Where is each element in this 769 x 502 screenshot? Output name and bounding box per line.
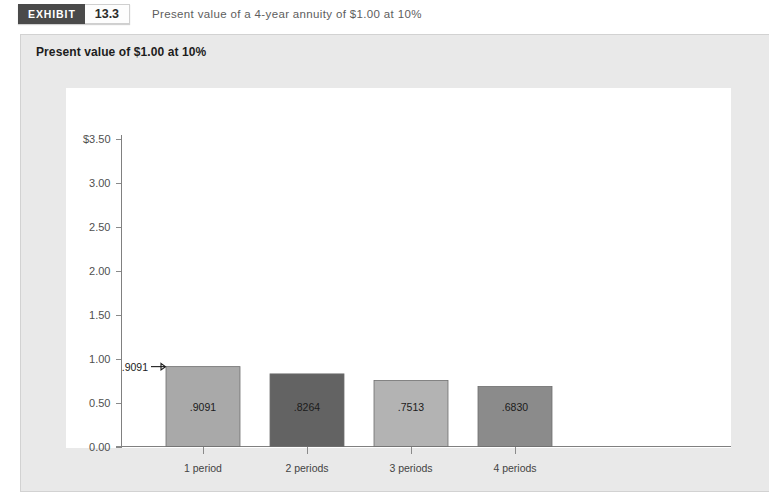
exhibit-badge-label: EXHIBIT bbox=[18, 4, 85, 24]
y-axis-tick-marks bbox=[116, 140, 122, 448]
chart-panel: Present value of $1.00 at 10% 0.000.501.… bbox=[20, 34, 769, 492]
y-axis-tick-label: 3.00 bbox=[89, 177, 110, 189]
x-axis-tick-marks bbox=[204, 447, 516, 454]
bar bbox=[478, 386, 552, 446]
y-axis-tick-labels: 0.000.501.001.502.002.503.00$3.50 bbox=[83, 133, 111, 453]
bar-value-label: .9091 bbox=[190, 401, 216, 413]
y-axis-tick-label: 2.50 bbox=[89, 221, 110, 233]
x-axis-tick-label: 2 periods bbox=[285, 462, 328, 474]
bars-group: .9091.8264.7513.6830 bbox=[166, 367, 552, 447]
y-axis-tick-label: 0.50 bbox=[89, 397, 110, 409]
bar-value-label: .8264 bbox=[294, 401, 320, 413]
y-axis-tick-label: 1.00 bbox=[89, 353, 110, 365]
bar bbox=[374, 380, 448, 446]
y-axis-tick-label: 0.00 bbox=[89, 441, 110, 453]
exhibit-header: EXHIBIT 13.3 Present value of a 4-year a… bbox=[0, 0, 769, 28]
y-axis-tick-label: 2.00 bbox=[89, 265, 110, 277]
y-axis-tick-label: $3.50 bbox=[83, 133, 111, 145]
exhibit-badge-number: 13.3 bbox=[85, 4, 130, 24]
x-axis-tick-label: 3 periods bbox=[389, 462, 432, 474]
exhibit-badge: EXHIBIT 13.3 bbox=[18, 4, 130, 24]
chart-annotations: .9091 bbox=[122, 361, 166, 373]
x-axis-tick-labels: 1 period2 periods3 periods4 periods bbox=[184, 462, 537, 474]
y-axis-tick-label: 1.50 bbox=[89, 309, 110, 321]
x-axis-tick-label: 4 periods bbox=[493, 462, 536, 474]
exhibit-caption: Present value of a 4-year annuity of $1.… bbox=[152, 8, 422, 20]
bar-callout-label: .9091 bbox=[122, 361, 148, 373]
x-axis-tick-label: 1 period bbox=[184, 462, 222, 474]
bar-chart: 0.000.501.001.502.002.503.00$3.50 .9091.… bbox=[21, 35, 769, 493]
bar-value-label: .6830 bbox=[502, 401, 528, 413]
bar-value-label: .7513 bbox=[398, 401, 424, 413]
